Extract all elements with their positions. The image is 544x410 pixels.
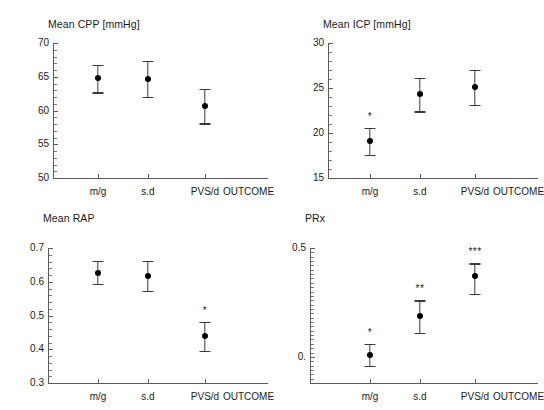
y-tick-minor — [311, 370, 314, 371]
y-tick-minor — [311, 278, 314, 279]
error-bar-cap-top — [470, 263, 481, 264]
y-tick-minor — [311, 331, 314, 332]
x-tick-label-0: m/g — [342, 391, 398, 402]
x-axis-line — [310, 383, 538, 384]
y-tick-major — [310, 357, 315, 358]
y-tick-minor — [311, 287, 314, 288]
x-tick — [420, 379, 421, 383]
y-tick-major — [310, 248, 315, 249]
y-tick-minor — [311, 274, 314, 275]
y-tick-minor — [311, 353, 314, 354]
y-tick-minor — [311, 318, 314, 319]
error-bar-cap-bottom — [365, 366, 376, 367]
y-tick-minor — [311, 366, 314, 367]
y-tick-minor — [311, 270, 314, 271]
y-tick-minor — [311, 326, 314, 327]
y-tick-label: 0.5 — [276, 242, 306, 253]
y-tick-minor — [311, 283, 314, 284]
data-marker — [417, 313, 423, 319]
x-axis-name: OUTCOME — [493, 391, 544, 402]
significance-marker-1: ** — [416, 284, 425, 294]
panel-title: PRx — [305, 212, 325, 224]
x-tick — [475, 379, 476, 383]
y-tick-minor — [311, 261, 314, 262]
x-tick — [370, 379, 371, 383]
data-marker — [472, 273, 478, 279]
y-tick-minor — [311, 305, 314, 306]
y-tick-minor — [311, 339, 314, 340]
y-tick-minor — [311, 252, 314, 253]
y-tick-minor — [311, 374, 314, 375]
y-tick-minor — [311, 300, 314, 301]
y-tick-minor — [311, 361, 314, 362]
error-bar-cap-bottom — [470, 294, 481, 295]
y-tick-minor — [311, 292, 314, 293]
y-tick-minor — [311, 296, 314, 297]
error-bar-cap-bottom — [415, 333, 426, 334]
y-tick-minor — [311, 335, 314, 336]
y-tick-minor — [311, 309, 314, 310]
significance-marker-0: * — [368, 328, 372, 338]
error-bar-cap-top — [365, 344, 376, 345]
y-tick-minor — [311, 322, 314, 323]
y-tick-minor — [311, 257, 314, 258]
y-tick-label: 0. — [276, 351, 306, 362]
y-tick-minor — [311, 313, 314, 314]
significance-marker-2: *** — [468, 247, 481, 257]
error-bar-cap-top — [415, 300, 426, 301]
x-tick-label-1: s.d — [392, 391, 448, 402]
data-marker — [367, 352, 373, 358]
y-tick-minor — [311, 265, 314, 266]
y-tick-minor — [311, 344, 314, 345]
y-tick-minor — [311, 379, 314, 380]
y-tick-minor — [311, 348, 314, 349]
y-axis-line — [310, 248, 311, 384]
